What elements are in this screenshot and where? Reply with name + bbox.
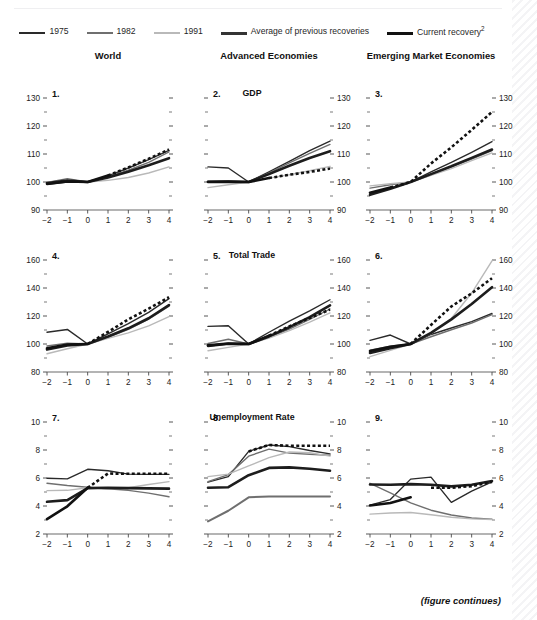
x-axis-label: 3 xyxy=(307,540,312,549)
x-axis-label: −1 xyxy=(386,216,396,225)
x-axis-label: 3 xyxy=(146,378,151,387)
series-line-current-recovery-dashed xyxy=(88,297,169,344)
y-axis-label: 140 xyxy=(26,284,40,293)
y-axis-label: 140 xyxy=(499,284,513,293)
series-line-average-of-previous-recoveries xyxy=(370,481,492,486)
series-line-current-recovery-dashed xyxy=(411,278,492,344)
panel-5-number: 5. xyxy=(213,251,221,261)
y-axis-label: 130 xyxy=(26,94,40,103)
y-axis-label: 100 xyxy=(26,178,40,187)
y-axis-label: 100 xyxy=(499,178,513,187)
y-axis-label: 100 xyxy=(499,340,513,349)
x-axis-label: −1 xyxy=(63,216,73,225)
y-axis-label: 120 xyxy=(26,122,40,131)
panel-2-number: 2. xyxy=(213,89,221,99)
legend-label-current: Current recovery2 xyxy=(417,25,485,37)
x-axis-label: 2 xyxy=(126,216,131,225)
panel-3: 90100110120130−2−1012343. xyxy=(330,86,534,234)
x-axis-label: 2 xyxy=(449,216,454,225)
y-axis-label: 2 xyxy=(35,530,40,539)
legend-item-y1991: 1991 xyxy=(154,26,203,36)
figure-root: 197519821991Average of previous recoveri… xyxy=(0,0,537,620)
series-line-current-recovery-solid xyxy=(47,488,88,519)
legend-label-y1991: 1991 xyxy=(184,26,203,36)
y-axis-label: 100 xyxy=(26,340,40,349)
x-axis-label: 1 xyxy=(267,216,272,225)
x-axis-label: 1 xyxy=(267,540,272,549)
x-axis-label: −2 xyxy=(203,540,213,549)
x-axis-label: 4 xyxy=(490,378,495,387)
y-axis-label: 110 xyxy=(27,150,40,159)
x-axis-label: 1 xyxy=(429,540,434,549)
panel-9-number: 9. xyxy=(375,413,383,423)
panel-3-svg: 90100110120130−2−101234 xyxy=(330,86,534,234)
legend-label-y1982: 1982 xyxy=(117,26,136,36)
x-axis-label: 4 xyxy=(490,540,495,549)
x-axis-label: 2 xyxy=(126,378,131,387)
y-axis-label: 6 xyxy=(35,474,40,483)
x-axis-label: 2 xyxy=(287,216,292,225)
x-axis-label: 3 xyxy=(469,378,474,387)
series-line-1991 xyxy=(208,452,330,477)
legend-item-y1982: 1982 xyxy=(87,26,136,36)
x-axis-label: −2 xyxy=(365,378,375,387)
series-line-1975 xyxy=(208,141,330,182)
y-axis-label: 8 xyxy=(35,446,40,455)
legend-item-current: Current recovery2 xyxy=(387,25,485,37)
x-axis-label: 1 xyxy=(106,540,111,549)
x-axis-label: −2 xyxy=(42,540,52,549)
x-axis-label: 3 xyxy=(146,216,151,225)
y-axis-label: 120 xyxy=(499,312,513,321)
column-headers: WorldAdvanced EconomiesEmerging Market E… xyxy=(0,50,504,66)
y-axis-label: 4 xyxy=(35,502,40,511)
x-axis-label: 2 xyxy=(287,378,292,387)
y-axis-label: 110 xyxy=(499,150,512,159)
y-axis-label: 120 xyxy=(26,312,40,321)
x-axis-label: 2 xyxy=(126,540,131,549)
panel-7-number: 7. xyxy=(52,413,60,423)
y-axis-label: 90 xyxy=(499,206,509,215)
x-axis-label: 0 xyxy=(408,540,413,549)
x-axis-label: −1 xyxy=(63,378,73,387)
series-line-current-recovery-dashed xyxy=(249,445,330,451)
figure-continues-note: (figure continues) xyxy=(421,595,501,606)
panel-1-number: 1. xyxy=(52,89,60,99)
y-axis-label: 80 xyxy=(31,368,41,377)
x-axis-label: −1 xyxy=(63,540,73,549)
x-axis-label: 0 xyxy=(408,216,413,225)
series-line-1975 xyxy=(208,445,330,482)
y-axis-label: 2 xyxy=(499,530,504,539)
panel-9-svg: 246810−2−101234 xyxy=(330,410,534,558)
series-line-1982 xyxy=(47,306,169,346)
y-axis-label: 4 xyxy=(499,502,504,511)
x-axis-label: −2 xyxy=(42,378,52,387)
x-axis-label: 4 xyxy=(490,216,495,225)
legend-label-average: Average of previous recoveries xyxy=(251,26,369,36)
x-axis-label: −1 xyxy=(224,216,234,225)
panel-6-number: 6. xyxy=(375,251,383,261)
x-axis-label: 3 xyxy=(469,540,474,549)
y-axis-label: 10 xyxy=(31,418,41,427)
x-axis-label: −2 xyxy=(203,216,213,225)
column-header-emerging: Emerging Market Economies xyxy=(324,50,537,61)
x-axis-label: 1 xyxy=(267,378,272,387)
x-axis-label: 1 xyxy=(429,378,434,387)
x-axis-label: −2 xyxy=(365,216,375,225)
panel-8-number: 8. xyxy=(213,413,221,423)
y-axis-label: 80 xyxy=(499,368,509,377)
series-line-1975 xyxy=(370,313,492,344)
x-axis-label: 2 xyxy=(449,378,454,387)
chart-legend: 197519821991Average of previous recoveri… xyxy=(0,22,504,40)
x-axis-label: 0 xyxy=(85,378,90,387)
legend-item-y1975: 1975 xyxy=(19,26,68,36)
x-axis-label: 2 xyxy=(449,540,454,549)
panel-9: 246810−2−1012349. xyxy=(330,410,534,558)
x-axis-label: 3 xyxy=(146,540,151,549)
x-axis-label: −2 xyxy=(365,540,375,549)
series-line-1991 xyxy=(370,261,492,357)
x-axis-label: −2 xyxy=(42,216,52,225)
panel-4-number: 4. xyxy=(52,251,60,261)
x-axis-label: 0 xyxy=(246,378,251,387)
x-axis-label: 1 xyxy=(106,216,111,225)
x-axis-label: −2 xyxy=(203,378,213,387)
